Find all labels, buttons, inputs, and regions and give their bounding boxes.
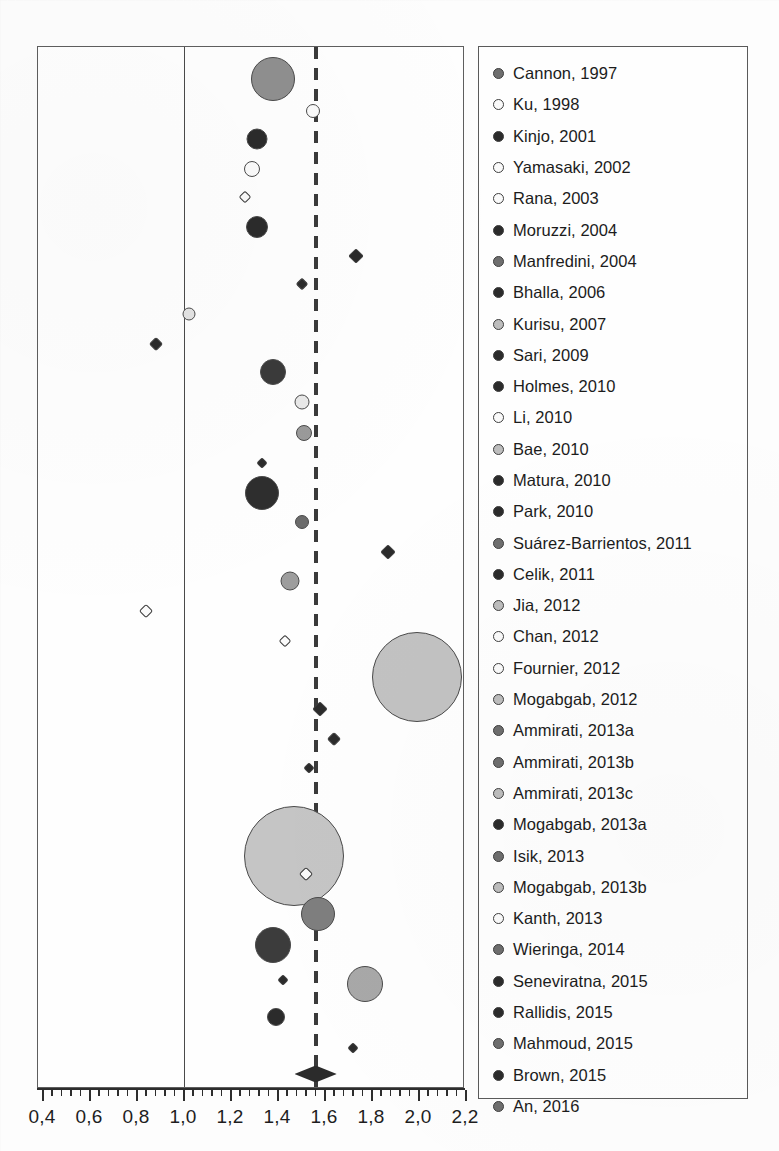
axis-tick-minor <box>192 1090 194 1096</box>
study-bubble <box>327 732 341 746</box>
legend-item: Kinjo, 2001 <box>493 121 747 152</box>
legend-marker-icon <box>493 287 504 298</box>
legend-item-label: Rana, 2003 <box>513 189 599 208</box>
null-effect-reference-line <box>184 47 185 1087</box>
study-bubble <box>244 806 344 906</box>
study-bubble <box>348 248 364 264</box>
legend-marker-icon <box>493 694 504 705</box>
legend-item-label: Park, 2010 <box>513 502 593 521</box>
study-bubble <box>381 544 397 560</box>
study-bubble <box>182 308 195 321</box>
axis-tick-minor <box>409 1090 411 1096</box>
legend-item: Yamasaki, 2002 <box>493 152 747 183</box>
legend-item: Manfredini, 2004 <box>493 246 747 277</box>
legend-marker-icon <box>493 1038 504 1049</box>
legend-marker-icon <box>493 162 504 173</box>
study-bubble <box>255 927 291 963</box>
legend-item-label: Suárez-Barrientos, 2011 <box>513 534 692 553</box>
plot-area <box>37 46 464 1088</box>
study-bubble <box>372 632 462 722</box>
axis-tick-minor <box>164 1090 166 1096</box>
legend-marker-icon <box>493 976 504 987</box>
study-bubble <box>347 966 383 1002</box>
axis-tick-label: 0,4 <box>28 1106 55 1128</box>
legend-marker-icon <box>493 725 504 736</box>
study-bubble <box>277 974 288 985</box>
legend-marker-icon <box>493 381 504 392</box>
legend-marker-icon <box>493 506 504 517</box>
legend-item-label: Bhalla, 2006 <box>513 283 605 302</box>
legend-item: Jia, 2012 <box>493 590 747 621</box>
legend-item: Ammirati, 2013b <box>493 747 747 778</box>
legend-item-label: Moruzzi, 2004 <box>513 221 617 240</box>
legend-marker-icon <box>493 913 504 924</box>
axis-tick-minor <box>362 1090 364 1096</box>
legend-marker-icon <box>493 819 504 830</box>
axis-tick-minor <box>258 1090 260 1096</box>
axis-tick-label: 2,2 <box>451 1106 478 1128</box>
pooled-estimate-dashed-line <box>314 47 318 1087</box>
study-bubble <box>239 191 252 204</box>
legend-marker-icon <box>493 350 504 361</box>
study-bubble <box>303 762 314 773</box>
legend-item: Rana, 2003 <box>493 183 747 214</box>
axis-tick-label: 0,6 <box>75 1106 102 1128</box>
legend-item-label: Ammirati, 2013a <box>513 721 634 740</box>
axis-tick-minor <box>174 1090 176 1096</box>
legend-item: Mogabgab, 2012 <box>493 684 747 715</box>
study-bubble <box>260 359 286 385</box>
study-bubble <box>296 425 312 441</box>
legend-marker-icon <box>493 851 504 862</box>
axis-tick-label: 1,6 <box>310 1106 337 1128</box>
legend-item: Mahmoud, 2015 <box>493 1028 747 1059</box>
study-bubble <box>251 57 295 101</box>
legend-marker-icon <box>493 631 504 642</box>
axis-tick-minor <box>117 1090 119 1096</box>
legend-item: Kurisu, 2007 <box>493 308 747 339</box>
axis-tick-minor <box>399 1090 401 1096</box>
legend-marker-icon <box>493 569 504 580</box>
axis-tick-minor <box>239 1090 241 1096</box>
axis-tick-minor <box>202 1090 204 1096</box>
legend-item-label: Ammirati, 2013c <box>513 784 633 803</box>
axis-tick-minor <box>70 1090 72 1096</box>
axis-tick-minor <box>456 1090 458 1096</box>
study-bubble <box>246 129 267 150</box>
legend: Cannon, 1997Ku, 1998Kinjo, 2001Yamasaki,… <box>478 46 748 1099</box>
legend-item-label: Brown, 2015 <box>513 1066 606 1085</box>
legend-item: Brown, 2015 <box>493 1060 747 1091</box>
study-bubble <box>246 216 268 238</box>
study-bubble <box>267 1008 285 1026</box>
legend-item-label: Cannon, 1997 <box>513 64 617 83</box>
axis-tick-minor <box>211 1090 213 1096</box>
legend-marker-icon <box>493 882 504 893</box>
legend-item: Mogabgab, 2013a <box>493 809 747 840</box>
legend-marker-icon <box>493 538 504 549</box>
legend-item-label: Jia, 2012 <box>513 596 580 615</box>
axis-tick-minor <box>437 1090 439 1096</box>
axis-tick-major <box>136 1090 138 1101</box>
x-axis <box>37 1088 465 1104</box>
legend-marker-icon <box>493 663 504 674</box>
study-bubble <box>279 635 292 648</box>
legend-item: Celik, 2011 <box>493 559 747 590</box>
axis-tick-label: 2,0 <box>404 1106 431 1128</box>
legend-marker-icon <box>493 757 504 768</box>
legend-item: Rallidis, 2015 <box>493 997 747 1028</box>
legend-item: An, 2016 <box>493 1091 747 1122</box>
axis-tick-minor <box>268 1090 270 1096</box>
legend-item-label: Mogabgab, 2013b <box>513 878 647 897</box>
axis-tick-minor <box>155 1090 157 1096</box>
legend-marker-icon <box>493 1007 504 1018</box>
pooled-summary-diamond <box>294 1066 336 1083</box>
axis-tick-minor <box>390 1090 392 1096</box>
axis-tick-minor <box>352 1090 354 1096</box>
axis-tick-minor <box>315 1090 317 1096</box>
legend-item: Ku, 1998 <box>493 89 747 120</box>
x-axis-line <box>37 1088 465 1090</box>
axis-tick-minor <box>380 1090 382 1096</box>
axis-tick-label: 0,8 <box>122 1106 149 1128</box>
legend-item-label: Celik, 2011 <box>513 565 595 584</box>
study-bubble <box>149 337 163 351</box>
legend-item-label: Ammirati, 2013b <box>513 753 634 772</box>
